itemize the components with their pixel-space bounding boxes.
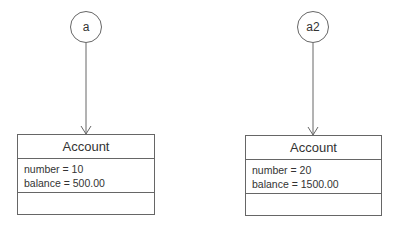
reference-circle-a2: a2 xyxy=(297,11,329,43)
attribute-balance: balance = 1500.00 xyxy=(252,177,381,191)
object-box-account-1: Account number = 10 balance = 500.00 xyxy=(17,134,155,215)
attributes-section: number = 20 balance = 1500.00 xyxy=(246,160,381,194)
attribute-balance: balance = 500.00 xyxy=(24,176,154,190)
class-name: Account xyxy=(18,135,154,159)
object-box-account-2: Account number = 20 balance = 1500.00 xyxy=(245,135,382,216)
attribute-number: number = 10 xyxy=(24,162,154,176)
operations-section xyxy=(246,194,381,215)
reference-label: a2 xyxy=(306,20,319,34)
reference-label: a xyxy=(83,20,90,34)
attribute-number: number = 20 xyxy=(252,163,381,177)
reference-circle-a: a xyxy=(70,11,102,43)
attributes-section: number = 10 balance = 500.00 xyxy=(18,159,154,193)
operations-section xyxy=(18,193,154,214)
class-name: Account xyxy=(246,136,381,160)
